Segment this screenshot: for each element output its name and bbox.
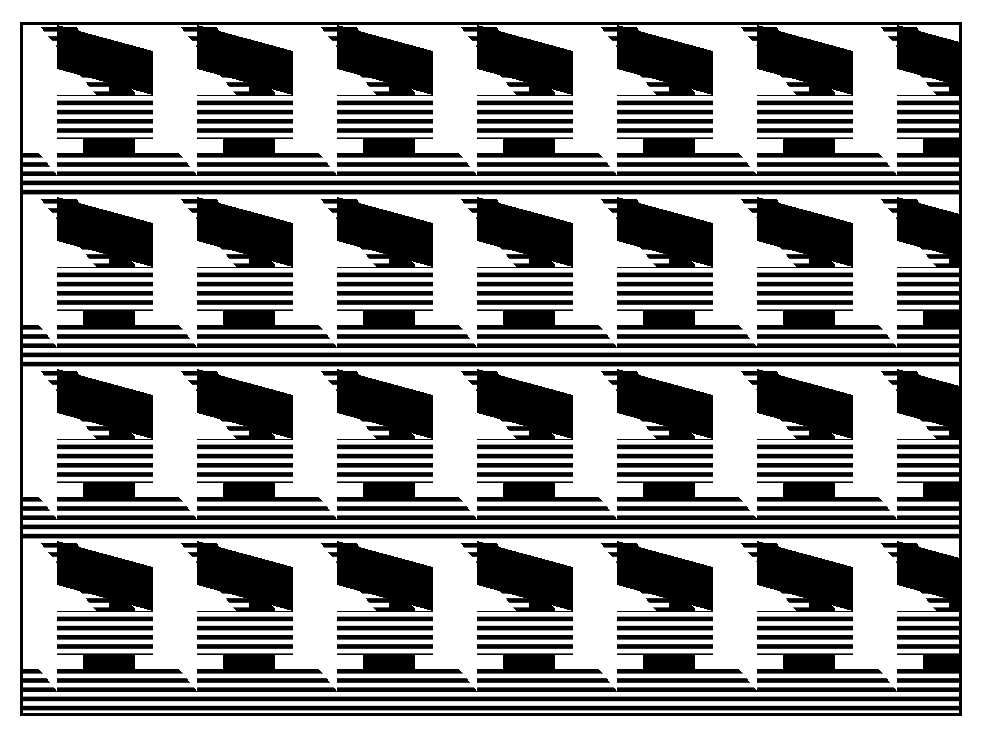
front-hatched-face [897,497,959,541]
tessellation-canvas [23,25,959,713]
front-hatched-face [477,497,599,541]
tessellation-unit [897,669,959,713]
front-hatched-face [57,325,179,369]
front-hatched-face [57,669,179,713]
front-hatched-face [337,153,459,197]
front-hatched-face [477,325,599,369]
page-title: Op-Art Isometric Zigzag Tessellation [0,21,1,22]
front-hatched-face [57,439,153,483]
front-hatched-face [197,669,319,713]
front-hatched-face [897,153,959,197]
front-hatched-face [617,611,713,655]
front-hatched-face [337,497,459,541]
front-hatched-face [757,669,879,713]
front-hatched-face [757,439,853,483]
front-hatched-face [897,439,959,483]
artwork-description: Repeating three-dimensional staircase / … [0,16,1,17]
front-hatched-face [617,497,739,541]
front-hatched-face [197,497,319,541]
front-hatched-face [23,325,39,369]
front-hatched-face [617,325,739,369]
front-hatched-face [337,267,433,311]
front-hatched-face [197,439,293,483]
front-hatched-face [757,325,879,369]
front-hatched-face [757,95,853,139]
front-hatched-face [57,95,153,139]
front-hatched-face [477,95,573,139]
front-hatched-face [897,669,959,713]
front-hatched-face [337,439,433,483]
front-hatched-face [757,153,879,197]
front-hatched-face [897,95,959,139]
front-hatched-face [617,153,739,197]
front-hatched-face [897,325,959,369]
front-hatched-face [57,267,153,311]
front-hatched-face [477,669,599,713]
front-hatched-face [477,267,573,311]
front-hatched-face [477,439,573,483]
front-hatched-face [23,497,39,541]
artwork-root: Op-Art Isometric Zigzag Tessellation Rep… [0,0,988,739]
artwork-plate [20,22,962,716]
front-hatched-face [197,325,319,369]
front-hatched-face [197,153,319,197]
front-hatched-face [197,267,293,311]
front-hatched-face [477,611,573,655]
front-hatched-face [57,611,153,655]
front-hatched-face [477,153,599,197]
front-hatched-face [57,153,179,197]
front-hatched-face [617,439,713,483]
front-hatched-face [337,95,433,139]
front-hatched-face [197,95,293,139]
front-hatched-face [757,267,853,311]
front-hatched-face [617,267,713,311]
front-hatched-face [197,611,293,655]
front-hatched-face [617,95,713,139]
front-hatched-face [897,267,959,311]
front-hatched-face [337,669,459,713]
front-hatched-face [757,611,853,655]
front-hatched-face [23,669,39,713]
front-hatched-face [57,497,179,541]
front-hatched-face [757,497,879,541]
front-hatched-face [337,325,459,369]
front-hatched-face [897,611,959,655]
front-hatched-face [337,611,433,655]
front-hatched-face [617,669,739,713]
front-hatched-face [23,153,39,197]
